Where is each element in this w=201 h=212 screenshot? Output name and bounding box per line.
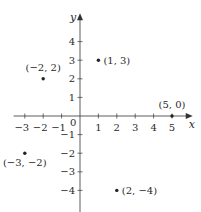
x-tick-label: 5 bbox=[169, 122, 175, 133]
data-point bbox=[23, 152, 26, 155]
y-axis-label: y bbox=[69, 11, 77, 24]
origin-label: 0 bbox=[70, 117, 76, 128]
coordinate-plane: xy 0−3−2−1123454321−1−2−3−4 (−2, 2)(1, 3… bbox=[0, 0, 201, 212]
y-tick-label: −2 bbox=[60, 148, 75, 159]
point-label: (−2, 2) bbox=[26, 62, 61, 73]
x-axis-label: x bbox=[189, 118, 196, 131]
y-tick-label: −3 bbox=[60, 166, 75, 177]
x-tick-label: 3 bbox=[132, 122, 138, 133]
axes: xy bbox=[14, 11, 196, 212]
y-tick-label: 3 bbox=[69, 55, 75, 66]
point-label: (1, 3) bbox=[103, 55, 130, 66]
y-tick-label: −1 bbox=[60, 129, 75, 140]
x-tick-label: 2 bbox=[114, 122, 120, 133]
point-label: (5, 0) bbox=[159, 99, 186, 110]
data-point bbox=[42, 77, 45, 80]
x-tick-label: 1 bbox=[95, 122, 101, 133]
y-tick-label: 4 bbox=[69, 36, 75, 47]
point-label: (2, −4) bbox=[122, 185, 157, 196]
y-tick-label: 2 bbox=[69, 73, 75, 84]
y-tick-label: −4 bbox=[60, 185, 75, 196]
data-point bbox=[170, 114, 173, 117]
point-label: (−3, −2) bbox=[3, 157, 47, 168]
y-axis-arrow-icon bbox=[77, 13, 83, 20]
x-tick-label: −3 bbox=[14, 122, 29, 133]
data-point bbox=[115, 189, 118, 192]
x-tick-label: −2 bbox=[33, 122, 48, 133]
y-tick-label: 1 bbox=[69, 92, 75, 103]
data-point bbox=[97, 59, 100, 62]
x-tick-label: 4 bbox=[150, 122, 156, 133]
